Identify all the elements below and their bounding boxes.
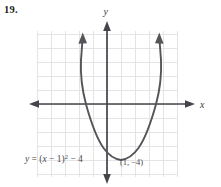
exercise-figure: 19. <box>0 0 221 187</box>
svg-text:y = (x − 1)2 − 4: y = (x − 1)2 − 4 <box>24 153 83 166</box>
equation-annotation: y = (x − 1)2 − 4 <box>24 153 83 166</box>
vertex-point-label: (1, −4) <box>120 157 143 167</box>
x-axis <box>29 100 195 108</box>
equation-tail: − 4 <box>68 154 83 164</box>
y-axis-top-arrowhead <box>103 21 111 31</box>
y-axis-label: y <box>103 6 109 17</box>
y-axis-bottom-arrowhead <box>103 174 111 184</box>
equation-middle: − 1) <box>47 154 65 165</box>
graph-canvas: x y y = (x − 1)2 − 4 (1, −4) <box>0 0 221 187</box>
x-axis-label: x <box>199 99 205 110</box>
x-axis-right-arrowhead <box>185 100 195 108</box>
x-axis-left-arrowhead <box>29 100 39 108</box>
equation-equals: = ( <box>29 154 42 165</box>
